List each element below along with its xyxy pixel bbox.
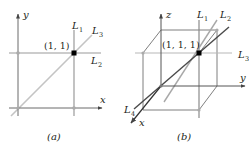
y-axis-label-b: y [239,72,246,83]
tick-dot [141,51,144,54]
caption-b: (b) [177,131,191,142]
caption-a: (a) [47,131,61,142]
svg-text:1: 1 [79,26,83,34]
x-axis-label-b: x [139,117,145,128]
svg-text:4: 4 [131,110,135,118]
panel-b: z y x (1, 1, 1) L 1 L 2 L 3 L 4 (b) [123,9,249,142]
label-l2-a: L 2 [90,55,102,69]
z-axis-label-b: z [165,9,172,20]
svg-text:L: L [219,9,227,20]
point-label-a: (1, 1) [44,40,70,51]
label-l3-b: L 3 [237,49,249,63]
svg-text:3: 3 [99,31,103,39]
svg-text:L: L [196,9,204,20]
y-axis-label-a: y [22,9,29,20]
svg-text:L: L [123,104,131,115]
panel-a: y x (1, 1) L 1 L 3 L 2 (a) [9,9,106,142]
origin-dot [159,84,162,87]
tick-dot [215,28,218,31]
tick-dot [16,51,20,55]
point-label-b: (1, 1, 1) [162,39,200,50]
tick-dot [72,106,76,110]
svg-text:L: L [91,25,99,36]
point-1-1-1 [197,51,202,56]
svg-text:2: 2 [98,61,102,69]
label-l1-a: L 1 [71,20,83,34]
svg-text:3: 3 [245,55,249,63]
figure: y x (1, 1) L 1 L 3 L 2 (a) [0,0,249,151]
point-1-1 [72,51,77,56]
svg-text:2: 2 [227,15,231,23]
svg-text:1: 1 [204,15,208,23]
label-l2-b: L 2 [219,9,231,23]
svg-text:L: L [71,20,79,31]
label-l3-a: L 3 [91,25,103,39]
x-axis-b [131,86,161,123]
origin-dot [16,106,19,109]
x-axis-label-a: x [100,94,106,105]
svg-text:L: L [237,49,245,60]
tick-dot [197,108,200,111]
svg-text:L: L [90,55,98,66]
label-l4-b: L 4 [123,104,135,118]
label-l1-b: L 1 [196,9,208,23]
